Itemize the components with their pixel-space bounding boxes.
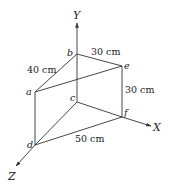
point-a-label: a (26, 86, 32, 97)
point-c-label: c (70, 92, 76, 103)
dimension-ef-label: 30 cm (125, 84, 154, 95)
dimension-df-label: 50 cm (75, 133, 104, 144)
wedge-diagram: Y X Z a b c d e f 30 cm 40 cm 30 cm 50 c… (0, 0, 173, 186)
dimension-be-label: 30 cm (91, 46, 120, 57)
point-d-label: d (27, 139, 33, 150)
point-f-label: f (123, 107, 129, 118)
dimension-ab-label: 40 cm (27, 64, 56, 75)
x-axis-label: X (152, 121, 162, 134)
point-e-label: e (124, 60, 130, 71)
z-axis-label: Z (7, 170, 16, 183)
point-b-label: b (67, 47, 73, 58)
x-axis (122, 117, 151, 126)
edge-cf (77, 102, 122, 117)
y-axis-label: Y (73, 9, 82, 22)
